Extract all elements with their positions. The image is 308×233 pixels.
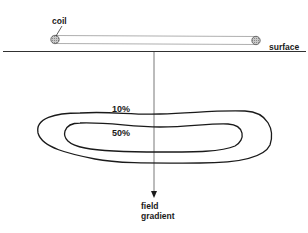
field-gradient-label-line1: field (141, 201, 158, 211)
coil-tube-top (55, 36, 256, 37)
contour-10-percent (38, 111, 272, 163)
contour-50-label: 50% (112, 128, 130, 138)
coil-label: coil (52, 16, 67, 26)
surface-label: surface (269, 42, 300, 52)
arrowhead-icon (151, 191, 157, 198)
coil-tube-bottom (55, 44, 256, 45)
field-gradient-label-line2: gradient (141, 211, 175, 221)
coil-left-cross-section (51, 35, 59, 43)
coil-right-cross-section (252, 36, 260, 44)
coil-leader-line (56, 26, 62, 36)
coil-field-diagram: coil surface 10% 50% field gradient (0, 0, 308, 233)
contour-10-label: 10% (112, 104, 130, 114)
coil (51, 26, 260, 45)
contour-50-percent (65, 123, 243, 152)
